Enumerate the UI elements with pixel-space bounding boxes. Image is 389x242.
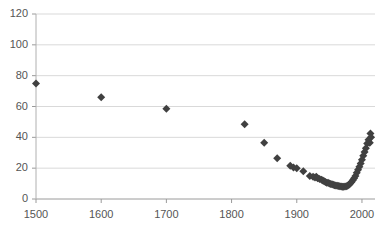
plot-area xyxy=(0,0,389,242)
x-axis-tick-label: 1600 xyxy=(79,209,123,220)
x-axis-tick-label: 1500 xyxy=(14,209,58,220)
y-axis-tick-label: 100 xyxy=(0,39,28,50)
data-point-markers xyxy=(32,79,375,190)
data-point xyxy=(241,120,249,128)
y-axis-tick-label: 0 xyxy=(0,193,28,204)
x-axis-tick-label: 1800 xyxy=(210,209,254,220)
data-point xyxy=(97,93,105,101)
x-axis-tick-label: 1900 xyxy=(275,209,319,220)
x-axis-tick-label: 1700 xyxy=(144,209,188,220)
y-axis-tick-label: 20 xyxy=(0,162,28,173)
gridlines xyxy=(36,14,375,199)
y-axis-tick-label: 40 xyxy=(0,131,28,142)
scatter-chart: 020406080100120 150016001700180019002000 xyxy=(0,0,389,242)
data-point xyxy=(260,139,268,147)
y-axis-tick-label: 120 xyxy=(0,8,28,19)
y-axis-tick-label: 80 xyxy=(0,70,28,81)
x-axis-tick-label: 2000 xyxy=(340,209,384,220)
data-point xyxy=(32,79,40,87)
data-point xyxy=(273,154,281,162)
y-axis-tick-label: 60 xyxy=(0,101,28,112)
